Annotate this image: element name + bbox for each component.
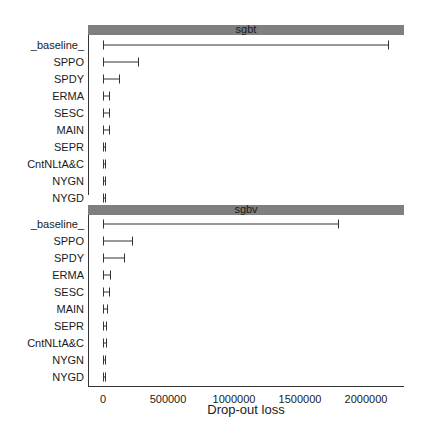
- y-label: _baseline_: [31, 218, 84, 230]
- bar: [103, 177, 106, 186]
- y-label: NYGD: [52, 371, 84, 383]
- y-label: _baseline_: [31, 39, 84, 51]
- panel-strip: sgbt: [88, 25, 404, 35]
- y-label: ERMA: [52, 90, 84, 102]
- y-label: CntNLtA&C: [27, 337, 84, 349]
- bar: [103, 220, 339, 229]
- bar: [103, 75, 120, 84]
- bar: [103, 194, 106, 203]
- bar: [103, 339, 107, 348]
- bar: [103, 237, 133, 246]
- bar: [103, 254, 125, 263]
- panel-strip: sgbv: [88, 205, 404, 215]
- y-label: SPPO: [53, 235, 84, 247]
- y-label: SESC: [54, 107, 84, 119]
- y-label: NYGN: [52, 175, 84, 187]
- bar: [103, 41, 389, 50]
- bar: [103, 126, 110, 135]
- y-label: SESC: [54, 286, 84, 298]
- bar: [103, 322, 107, 331]
- x-axis-label: Drop-out loss: [88, 402, 404, 417]
- y-label: NYGD: [52, 192, 84, 204]
- bar: [103, 356, 106, 365]
- y-label: SPDY: [54, 252, 84, 264]
- x-axis: 0 500000 1000000 1500000 2000000: [88, 386, 404, 387]
- y-label: CntNLtA&C: [27, 158, 84, 170]
- bar: [103, 160, 106, 169]
- panel-title: sgbt: [88, 23, 404, 35]
- bar: [103, 271, 111, 280]
- plot-area: [88, 215, 404, 386]
- bar: [103, 305, 108, 314]
- y-label: NYGN: [52, 354, 84, 366]
- bar: [103, 288, 110, 297]
- y-label: ERMA: [52, 269, 84, 281]
- bar: [103, 143, 106, 152]
- y-label: MAIN: [57, 124, 85, 136]
- panel-sgbv: sgbv: [88, 205, 404, 385]
- bar: [103, 109, 110, 118]
- y-label: SEPR: [54, 320, 84, 332]
- y-label: SPPO: [53, 56, 84, 68]
- bar: [103, 373, 106, 382]
- bar: [103, 58, 139, 67]
- y-label: SPDY: [54, 73, 84, 85]
- bar: [103, 92, 110, 101]
- panel-title: sgbv: [88, 203, 404, 215]
- panel-sgbt: sgbt: [88, 25, 404, 195]
- y-label: SEPR: [54, 141, 84, 153]
- y-label: MAIN: [57, 303, 85, 315]
